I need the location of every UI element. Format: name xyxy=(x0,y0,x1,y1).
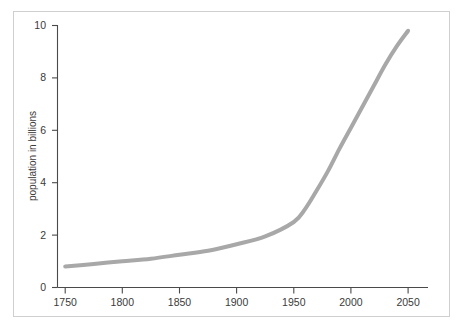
x-tick-label-1950: 1950 xyxy=(282,296,306,308)
y-axis-title: population in billions xyxy=(27,111,38,201)
x-tick-label-1850: 1850 xyxy=(168,296,192,308)
chart-figure: 0 2 4 6 8 10 1750 1800 1850 1900 1950 20… xyxy=(0,0,465,332)
x-tick-label-1800: 1800 xyxy=(111,296,135,308)
y-tick-marks xyxy=(52,26,58,288)
y-tick-label-0: 0 xyxy=(40,281,46,293)
x-tick-label-2050: 2050 xyxy=(396,296,420,308)
x-tick-label-1750: 1750 xyxy=(54,296,78,308)
x-tick-marks xyxy=(65,288,408,294)
y-tick-label-6: 6 xyxy=(40,124,46,136)
x-tick-label-1900: 1900 xyxy=(225,296,249,308)
y-tick-label-4: 4 xyxy=(40,176,46,188)
y-tick-label-10: 10 xyxy=(34,19,46,31)
y-tick-label-2: 2 xyxy=(40,229,46,241)
x-tick-label-2000: 2000 xyxy=(339,296,363,308)
population-line-chart: 0 2 4 6 8 10 1750 1800 1850 1900 1950 20… xyxy=(0,0,465,332)
y-tick-label-8: 8 xyxy=(40,71,46,83)
population-curve xyxy=(65,31,408,267)
